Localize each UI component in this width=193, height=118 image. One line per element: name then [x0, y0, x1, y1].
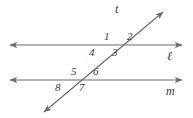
- angle-label-3: 3: [112, 47, 118, 58]
- angle-label-8: 8: [55, 82, 61, 93]
- transversal-line-t: [44, 12, 163, 112]
- angle-label-2: 2: [127, 31, 133, 42]
- line-label-l: ℓ: [167, 50, 172, 62]
- angle-label-1: 1: [104, 31, 110, 42]
- angle-label-6: 6: [93, 66, 99, 77]
- line-label-m: m: [166, 85, 175, 97]
- angle-label-4: 4: [89, 47, 95, 58]
- angle-label-5: 5: [71, 66, 77, 77]
- angle-label-7: 7: [79, 82, 85, 93]
- line-label-t: t: [115, 3, 118, 15]
- geometry-canvas: [0, 0, 193, 118]
- geometry-figure: t ℓ m 1 2 3 4 5 6 7 8: [0, 0, 193, 118]
